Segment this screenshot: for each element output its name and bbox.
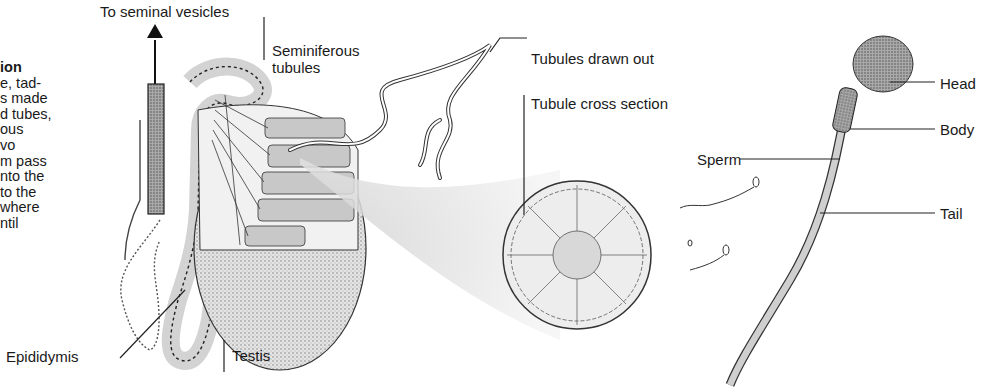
side-caption-line: d tubes, <box>0 107 52 123</box>
label-body: Body <box>940 121 974 138</box>
label-tail: Tail <box>940 205 963 222</box>
tubule-cross-section <box>503 181 651 329</box>
vas-deferens <box>148 84 164 214</box>
side-caption-line: s made <box>0 91 52 107</box>
label-tubules: tubules <box>272 59 320 76</box>
large-sperm <box>730 36 913 385</box>
label-testis: Testis <box>232 347 270 364</box>
side-caption-line: where <box>0 200 52 216</box>
side-caption-heading: ion <box>0 60 52 76</box>
side-caption-line: e, tad- <box>0 76 52 92</box>
label-tubules-drawn-out: Tubules drawn out <box>531 50 654 67</box>
side-caption-line: ous <box>0 122 52 138</box>
diagram-canvas <box>0 0 992 388</box>
label-epididymis: Epididymis <box>6 348 79 365</box>
label-head: Head <box>940 75 976 92</box>
side-caption-line: vo <box>0 138 52 154</box>
side-caption: ion e, tad- s made d tubes, ous vo m pas… <box>0 60 52 232</box>
side-caption-line: m pass <box>0 154 52 170</box>
side-caption-line: to the <box>0 185 52 201</box>
small-sperm <box>680 177 759 270</box>
label-seminal-vesicles: To seminal vesicles <box>100 3 229 20</box>
arrow-up-icon <box>147 24 163 84</box>
side-caption-line: ntil <box>0 216 52 232</box>
label-seminiferous: Seminiferous <box>272 42 360 59</box>
label-sperm: Sperm <box>697 151 741 168</box>
testis-shape <box>194 95 366 370</box>
side-caption-line: nto the <box>0 169 52 185</box>
label-tubule-cross-section: Tubule cross section <box>531 95 668 112</box>
